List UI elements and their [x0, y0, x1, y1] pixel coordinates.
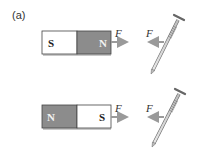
force-arrow-magnet-bottom: F	[111, 102, 127, 117]
pole-label-right: S	[99, 111, 105, 123]
bar-magnet-bottom: N S	[42, 105, 111, 130]
force-arrow-nail-bottom: F	[145, 102, 164, 117]
force-label: F	[145, 27, 153, 39]
pole-label-left: S	[48, 37, 54, 49]
pole-label-right: N	[99, 37, 107, 49]
force-label: F	[114, 102, 122, 114]
force-arrow-nail-top: F	[145, 27, 164, 42]
iron-nail-top	[151, 15, 184, 74]
force-label: F	[145, 102, 153, 114]
bar-magnet-top: S N	[42, 31, 111, 56]
force-arrow-magnet-top: F	[111, 27, 127, 42]
south-pole-segment	[77, 105, 111, 128]
pole-label-left: N	[47, 111, 55, 123]
force-label: F	[114, 27, 122, 39]
magnet-nail-diagram: S N F F N S F F	[0, 0, 203, 156]
